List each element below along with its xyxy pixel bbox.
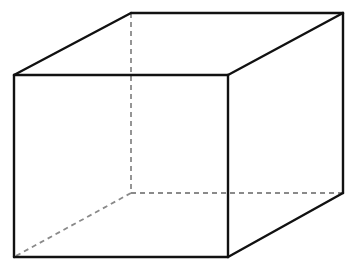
cube-diagram xyxy=(0,0,357,275)
background xyxy=(0,0,357,275)
